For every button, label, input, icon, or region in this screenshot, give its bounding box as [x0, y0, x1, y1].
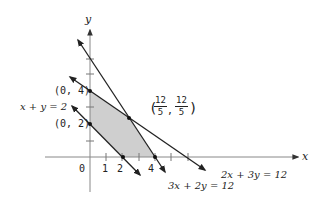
intersection-y-numerator: 12: [175, 96, 188, 107]
intersection-comma: ,: [167, 106, 173, 116]
line-label-x-y-2: x + y = 2: [20, 102, 67, 112]
point-label-0-4: (0, 4): [54, 86, 90, 96]
intersection-x-numerator: 12: [154, 96, 167, 107]
intersection-y-denominator: 5: [175, 107, 188, 117]
x-tick-label-1: 1: [102, 164, 108, 174]
intersection-close-paren: ): [189, 101, 197, 115]
line-label-3x-2y-12: 3x + 2y = 12: [168, 181, 234, 191]
line-label-2x-3y-12: 2x + 3y = 12: [221, 170, 287, 180]
x-axis-label: x: [302, 151, 308, 162]
intersection-y-fraction: 12 5: [175, 96, 188, 117]
x-tick-label-4: 4: [148, 164, 154, 174]
origin-label: 0: [79, 164, 85, 174]
x-tick-label-2: 2: [117, 164, 123, 174]
point-label-0-2: (0, 2): [54, 119, 90, 129]
intersection-x-fraction: 12 5: [154, 96, 167, 117]
y-axis-label: y: [85, 14, 91, 25]
intersection-x-denominator: 5: [154, 107, 167, 117]
feasible-region-diagram: y x 0 1 2 4 (0, 4) (0, 2) x + y = 2 ( 12…: [0, 0, 322, 203]
feasible-region: [90, 91, 155, 157]
